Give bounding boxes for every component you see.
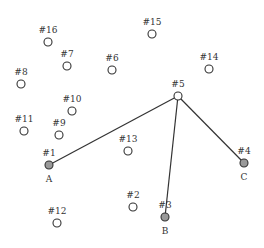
edge-5-1 [49,96,178,165]
node-9: #9 [52,118,66,139]
node-label: #10 [63,94,82,104]
node-1: #1A [42,148,55,184]
network-diagram: #1A#2#3B#4C#5#6#7#8#9#10#11#12#13#14#15#… [0,0,264,248]
node-circle [68,107,76,115]
terminal-label: B [162,226,169,236]
node-circle [148,30,156,38]
node-label: #13 [119,134,138,144]
node-circle [124,147,132,155]
node-2: #2 [126,190,139,211]
node-7: #7 [60,49,74,70]
terminal-node-circle [161,213,169,221]
node-8: #8 [14,67,28,88]
node-11: #11 [15,114,34,135]
node-label: #6 [105,53,119,63]
node-label: #5 [171,79,185,89]
terminal-label: A [45,174,53,184]
node-4: #4C [237,146,251,182]
node-circle [17,80,25,88]
node-circle [53,219,61,227]
terminal-node-circle [240,159,248,167]
node-label: #9 [52,118,66,128]
node-label: #4 [237,146,251,156]
node-label: #2 [126,190,139,200]
edge-5-4 [178,96,244,163]
node-16: #16 [39,25,58,46]
node-circle [205,65,213,73]
node-label: #16 [39,25,58,35]
node-5: #5 [171,79,185,100]
node-circle [63,62,71,70]
edges-layer [49,96,244,217]
node-label: #1 [42,148,55,158]
node-circle [44,38,52,46]
edge-5-3 [165,96,178,217]
node-label: #11 [15,114,34,124]
node-13: #13 [119,134,138,155]
terminal-node-circle [45,161,53,169]
node-12: #12 [48,206,67,227]
node-label: #3 [158,200,172,210]
node-label: #8 [14,67,28,77]
node-circle [55,131,63,139]
terminal-label: C [241,172,248,182]
node-label: #12 [48,206,67,216]
node-circle [129,203,137,211]
node-circle [20,127,28,135]
nodes-layer: #1A#2#3B#4C#5#6#7#8#9#10#11#12#13#14#15#… [14,17,251,236]
node-6: #6 [105,53,119,74]
node-3: #3B [158,200,172,236]
node-15: #15 [143,17,162,38]
node-circle [108,66,116,74]
node-14: #14 [200,52,219,73]
node-label: #14 [200,52,219,62]
node-label: #7 [60,49,74,59]
node-label: #15 [143,17,162,27]
node-circle [174,92,182,100]
node-10: #10 [63,94,82,115]
